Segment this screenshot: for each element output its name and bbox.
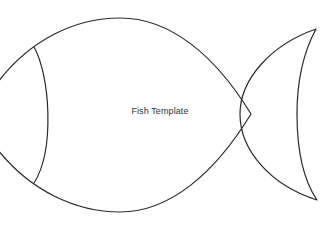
diagram-title: Fish Template [0,106,336,116]
diagram-title-text: Fish Template [131,106,188,116]
